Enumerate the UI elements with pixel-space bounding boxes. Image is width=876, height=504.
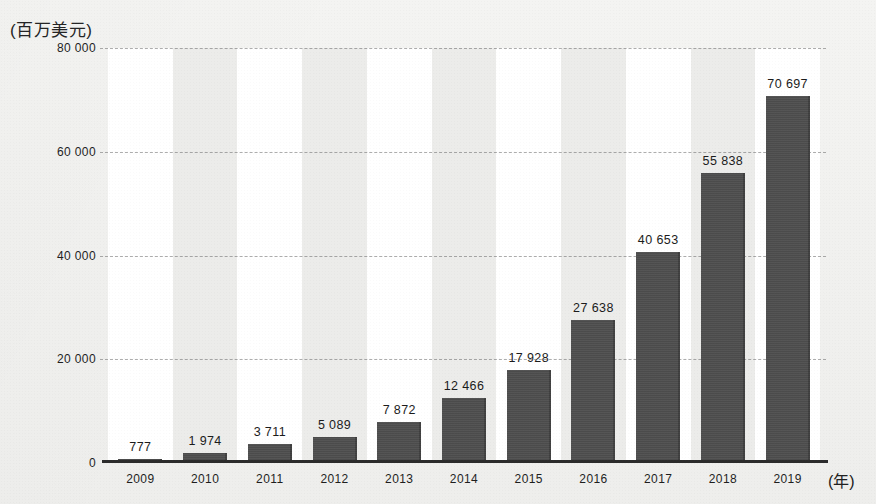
bar-value-label: 17 928 — [508, 351, 549, 365]
chart-page: (百万美元) 020 00040 00060 00080 000 7771 97… — [0, 0, 876, 504]
y-axis-tick-label: 20 000 — [57, 352, 96, 366]
bar-column: 7 872 — [367, 48, 432, 463]
bar-series: 7771 9743 7115 0897 87212 46617 92827 63… — [108, 48, 820, 463]
bar — [377, 422, 421, 463]
y-axis-tick-label: 40 000 — [57, 249, 96, 263]
x-axis-tick-label: 2018 — [709, 472, 737, 486]
bar — [636, 252, 680, 463]
bar-column: 17 928 — [496, 48, 561, 463]
bar-value-label: 3 711 — [254, 425, 286, 439]
y-axis-unit-label: (百万美元) — [10, 16, 92, 41]
bar — [507, 370, 551, 463]
bar-column: 70 697 — [755, 48, 820, 463]
x-axis-tick-labels: 2009201020112012201320142015201620172018… — [108, 472, 820, 496]
bar — [766, 96, 810, 463]
bar-column: 40 653 — [626, 48, 691, 463]
y-axis-tick-label: 60 000 — [57, 145, 96, 159]
bar-column: 12 466 — [432, 48, 497, 463]
bar-value-label: 70 697 — [767, 77, 808, 91]
bar-value-label: 27 638 — [573, 301, 614, 315]
bar — [571, 320, 615, 463]
bar-column: 27 638 — [561, 48, 626, 463]
x-axis-tick-label: 2017 — [644, 472, 672, 486]
bar-value-label: 5 089 — [318, 418, 351, 432]
x-axis-tick-label: 2016 — [579, 472, 607, 486]
x-axis-unit-label: (年) — [828, 468, 855, 492]
bar-column: 3 711 — [237, 48, 302, 463]
y-axis-tick-label: 80 000 — [57, 41, 96, 55]
x-axis-tick-label: 2015 — [515, 472, 543, 486]
x-axis-tick-label: 2009 — [126, 472, 154, 486]
x-axis-tick-label: 2013 — [385, 472, 413, 486]
x-axis-line — [102, 460, 828, 463]
bar-value-label: 40 653 — [638, 233, 679, 247]
x-axis-tick-label: 2019 — [773, 472, 801, 486]
bar-value-label: 1 974 — [188, 434, 221, 448]
x-axis-tick-label: 2014 — [450, 472, 478, 486]
x-axis-tick-label: 2010 — [191, 472, 219, 486]
bar-column: 777 — [108, 48, 173, 463]
bar-column: 5 089 — [302, 48, 367, 463]
bar-column: 55 838 — [691, 48, 756, 463]
bar-column: 1 974 — [173, 48, 238, 463]
bar — [701, 173, 745, 463]
bar-value-label: 7 872 — [383, 403, 416, 417]
bar-value-label: 777 — [129, 440, 151, 454]
bar-value-label: 55 838 — [703, 154, 744, 168]
bar-value-label: 12 466 — [444, 379, 485, 393]
plot-area: 020 00040 00060 00080 000 7771 9743 7115… — [108, 48, 820, 463]
bar — [442, 398, 486, 463]
x-axis-tick-label: 2011 — [256, 472, 283, 486]
x-axis-tick-label: 2012 — [320, 472, 348, 486]
y-axis-tick-label: 0 — [89, 456, 96, 470]
